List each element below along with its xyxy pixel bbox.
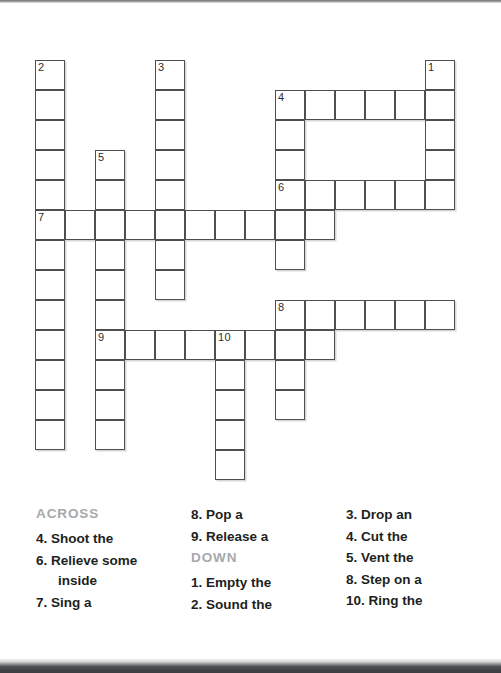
- clue-column-3: 3. Drop an 4. Cut the 5. Vent the 8. Ste…: [346, 505, 496, 655]
- clue-down-3[interactable]: 3. Drop an: [346, 505, 496, 526]
- crossword-cell[interactable]: [215, 450, 245, 480]
- clue-number: 2.: [191, 597, 202, 612]
- crossword-cell[interactable]: [35, 90, 65, 120]
- crossword-cell[interactable]: [95, 360, 125, 390]
- crossword-cell[interactable]: [35, 360, 65, 390]
- clue-down-1[interactable]: 1. Empty the: [191, 573, 346, 594]
- crossword-cell[interactable]: [275, 210, 305, 240]
- crossword-cell[interactable]: [395, 90, 425, 120]
- crossword-cell[interactable]: [425, 90, 455, 120]
- crossword-cell[interactable]: [95, 420, 125, 450]
- crossword-cell[interactable]: [35, 420, 65, 450]
- clue-down-4[interactable]: 4. Cut the: [346, 527, 496, 548]
- crossword-cell[interactable]: [95, 390, 125, 420]
- crossword-cell[interactable]: [155, 180, 185, 210]
- crossword-cell[interactable]: [95, 180, 125, 210]
- crossword-cell[interactable]: [125, 210, 155, 240]
- clue-down-8[interactable]: 8. Step on a: [346, 570, 496, 591]
- clue-number: 1.: [191, 575, 202, 590]
- crossword-cell[interactable]: 3: [155, 60, 185, 90]
- clue-text: Drop an: [361, 507, 412, 522]
- clue-across-9[interactable]: 9. Release a: [191, 527, 346, 548]
- clue-number: 8.: [346, 572, 357, 587]
- clue-text-continuation: inside: [36, 571, 191, 592]
- crossword-cell[interactable]: [275, 120, 305, 150]
- crossword-cell[interactable]: [305, 180, 335, 210]
- crossword-cell[interactable]: [425, 180, 455, 210]
- crossword-cell[interactable]: [215, 210, 245, 240]
- crossword-cell[interactable]: [425, 150, 455, 180]
- crossword-cell[interactable]: 6: [275, 180, 305, 210]
- clue-across-6[interactable]: 6. Relieve some inside: [36, 551, 191, 592]
- crossword-cell[interactable]: [245, 210, 275, 240]
- crossword-cell[interactable]: [305, 330, 335, 360]
- crossword-cell[interactable]: [215, 360, 245, 390]
- crossword-cell[interactable]: [185, 210, 215, 240]
- clue-across-8[interactable]: 8. Pop a: [191, 505, 346, 526]
- crossword-cell[interactable]: [155, 330, 185, 360]
- crossword-cell[interactable]: 5: [95, 150, 125, 180]
- crossword-cell[interactable]: [35, 270, 65, 300]
- crossword-cell[interactable]: [305, 300, 335, 330]
- crossword-cell[interactable]: [155, 120, 185, 150]
- crossword-cell[interactable]: [275, 150, 305, 180]
- crossword-cell[interactable]: [425, 300, 455, 330]
- crossword-cell[interactable]: [35, 150, 65, 180]
- crossword-cell[interactable]: [95, 270, 125, 300]
- across-heading: ACROSS: [36, 505, 191, 523]
- crossword-cell[interactable]: [35, 300, 65, 330]
- crossword-cell[interactable]: [125, 330, 155, 360]
- crossword-cell[interactable]: [335, 300, 365, 330]
- crossword-cell[interactable]: [305, 210, 335, 240]
- clue-down-2[interactable]: 2. Sound the: [191, 595, 346, 616]
- crossword-cell[interactable]: [185, 330, 215, 360]
- crossword-cell[interactable]: [335, 90, 365, 120]
- crossword-cell[interactable]: [275, 240, 305, 270]
- cell-number: 5: [98, 151, 105, 163]
- crossword-cell[interactable]: 4: [275, 90, 305, 120]
- crossword-cell[interactable]: [245, 330, 275, 360]
- clue-down-5[interactable]: 5. Vent the: [346, 548, 496, 569]
- crossword-cell[interactable]: [305, 90, 335, 120]
- crossword-cell[interactable]: [395, 300, 425, 330]
- clue-across-7[interactable]: 7. Sing a: [36, 593, 191, 614]
- crossword-cell[interactable]: [395, 180, 425, 210]
- crossword-cell[interactable]: [275, 360, 305, 390]
- crossword-cell[interactable]: [35, 390, 65, 420]
- crossword-cell[interactable]: 2: [35, 60, 65, 90]
- cell-number: 4: [278, 91, 285, 103]
- crossword-cell[interactable]: [35, 120, 65, 150]
- crossword-cell[interactable]: [365, 300, 395, 330]
- crossword-cell[interactable]: [155, 210, 185, 240]
- crossword-cell[interactable]: 10: [215, 330, 245, 360]
- crossword-cell[interactable]: 8: [275, 300, 305, 330]
- crossword-cell[interactable]: [35, 330, 65, 360]
- crossword-cell[interactable]: [425, 120, 455, 150]
- crossword-cell[interactable]: [335, 180, 365, 210]
- clue-column-1: ACROSS 4. Shoot the 6. Relieve some insi…: [36, 505, 191, 655]
- crossword-cell[interactable]: [95, 300, 125, 330]
- crossword-cell[interactable]: [215, 420, 245, 450]
- crossword-cell[interactable]: 7: [35, 210, 65, 240]
- crossword-cell[interactable]: [95, 240, 125, 270]
- clue-down-10[interactable]: 10. Ring the: [346, 591, 496, 612]
- crossword-cell[interactable]: [365, 90, 395, 120]
- crossword-grid[interactable]: 23145678910: [0, 0, 501, 500]
- clue-text: Pop a: [206, 507, 243, 522]
- crossword-cell[interactable]: 9: [95, 330, 125, 360]
- crossword-cell[interactable]: [365, 180, 395, 210]
- crossword-cell[interactable]: [155, 270, 185, 300]
- crossword-cell[interactable]: [35, 180, 65, 210]
- crossword-cell[interactable]: [275, 390, 305, 420]
- crossword-cell[interactable]: [65, 210, 95, 240]
- clue-text: Cut the: [361, 529, 408, 544]
- clue-across-4[interactable]: 4. Shoot the: [36, 529, 191, 550]
- crossword-cell[interactable]: [95, 210, 125, 240]
- crossword-cell[interactable]: [155, 240, 185, 270]
- crossword-cell[interactable]: 1: [425, 60, 455, 90]
- crossword-cell[interactable]: [35, 240, 65, 270]
- crossword-cell[interactable]: [155, 150, 185, 180]
- crossword-cell[interactable]: [215, 390, 245, 420]
- crossword-cell[interactable]: [155, 90, 185, 120]
- crossword-cell[interactable]: [275, 330, 305, 360]
